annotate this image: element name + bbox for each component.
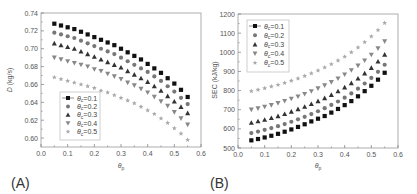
x-tick-label: 0.0 (233, 151, 243, 158)
y-tick-label: 0.66 (24, 81, 38, 88)
data-point-triangle-down (112, 74, 117, 79)
data-point-triangle-down (289, 97, 294, 102)
data-point-triangle-up (165, 94, 170, 99)
y-tick-label: 800 (223, 87, 235, 94)
data-point-square (86, 32, 90, 36)
data-point-star (356, 45, 361, 50)
data-point-circle (369, 76, 373, 80)
data-point-square (92, 35, 96, 39)
data-point-circle (283, 122, 287, 126)
x-tick-label: 0.2 (89, 150, 99, 157)
data-point-circle (79, 39, 83, 43)
data-point-circle (329, 103, 333, 107)
data-point-square (172, 81, 176, 85)
y-tick-label: 1100 (220, 30, 235, 37)
data-point-star (349, 50, 354, 55)
data-point-triangle-up (145, 79, 150, 84)
data-point-triangle-down (349, 68, 354, 73)
data-point-triangle-up (322, 96, 327, 101)
data-point-square (363, 89, 367, 93)
data-point-triangle-down (132, 83, 137, 88)
data-point-circle (336, 99, 340, 103)
data-point-triangle-up (92, 54, 97, 59)
data-point-star (329, 62, 334, 67)
data-point-circle (179, 96, 183, 100)
data-point-triangle-up (249, 120, 254, 125)
data-point-triangle-down (138, 87, 143, 92)
data-point-square (263, 135, 267, 139)
data-point-star (282, 80, 287, 85)
data-point-square (253, 24, 257, 28)
data-point-triangle-down (98, 69, 103, 74)
data-point-square (79, 30, 83, 34)
data-point-circle (52, 31, 56, 35)
data-point-triangle-down (335, 76, 340, 81)
data-point-square (179, 88, 183, 92)
panel-a-legend: θc=0.1θc=0.2θc=0.3θc=0.4θc=0.5 (60, 92, 100, 140)
data-point-triangle-down (249, 108, 254, 113)
y-tick-label: 1200 (219, 11, 235, 18)
data-point-square (106, 40, 110, 44)
data-point-circle (263, 128, 267, 132)
data-point-triangle-up (138, 76, 143, 81)
data-point-triangle-down (158, 99, 163, 104)
data-point-triangle-up (52, 41, 57, 46)
data-point-circle (92, 44, 96, 48)
data-point-square (349, 99, 353, 103)
data-point-triangle-up (255, 119, 260, 124)
data-point-star (65, 78, 70, 83)
data-point-triangle-down (262, 105, 267, 110)
data-point-triangle-down (72, 61, 77, 66)
panel-b-x-axis-title: θp (315, 162, 322, 171)
x-tick-label: 0.6 (196, 150, 206, 157)
data-point-circle (66, 34, 70, 38)
data-point-square (256, 137, 260, 141)
y-tick-label: 0.60 (24, 135, 38, 142)
data-point-circle (309, 112, 313, 116)
data-point-triangle-down (355, 64, 360, 69)
y-tick-label: 0.68 (24, 63, 38, 70)
data-point-triangle-down (65, 59, 70, 64)
data-point-square (316, 117, 320, 121)
data-point-star (276, 82, 281, 87)
data-point-star (296, 76, 301, 81)
data-point-circle (139, 66, 143, 70)
data-point-square (66, 96, 70, 100)
data-point-triangle-down (255, 106, 260, 111)
y-tick-label: 0.74 (24, 10, 38, 17)
data-point-square (343, 103, 347, 107)
data-point-triangle-down (165, 104, 170, 109)
data-point-square (132, 54, 136, 58)
data-point-triangle-up (282, 111, 287, 116)
x-tick-label: 0.3 (116, 150, 126, 157)
y-tick-label: 900 (223, 68, 235, 75)
data-point-circle (363, 81, 367, 85)
data-point-circle (383, 63, 387, 67)
data-point-triangle-down (105, 72, 110, 77)
data-point-triangle-up (118, 65, 123, 70)
data-point-triangle-down (342, 72, 347, 77)
data-point-triangle-up (289, 109, 294, 114)
data-point-star (342, 54, 347, 59)
data-point-circle (376, 70, 380, 74)
data-point-star (152, 111, 157, 116)
data-point-square (289, 127, 293, 131)
data-point-square (99, 38, 103, 42)
data-point-circle (343, 96, 347, 100)
x-tick-label: 0.3 (313, 151, 323, 158)
data-point-triangle-down (85, 65, 90, 70)
data-point-triangle-up (342, 85, 347, 90)
data-point-star (322, 65, 327, 70)
data-point-star (72, 80, 77, 85)
data-point-circle (269, 126, 273, 130)
data-point-star (289, 78, 294, 83)
panel-b-y-axis-title: SEC (kJ/kg) (211, 61, 219, 98)
data-point-triangle-up (295, 107, 300, 112)
x-tick-label: 0.6 (393, 151, 403, 158)
data-point-triangle-up (275, 114, 280, 119)
y-tick-label: 1000 (219, 49, 235, 56)
data-point-star (362, 40, 367, 45)
x-tick-label: 0.4 (143, 150, 153, 157)
data-point-star (185, 137, 190, 142)
data-point-square (336, 107, 340, 111)
